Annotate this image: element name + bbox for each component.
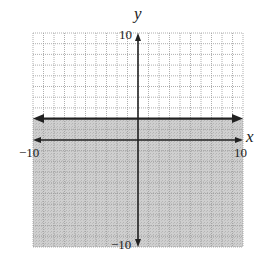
x-max-tick-label: 10 <box>234 146 247 159</box>
x-axis-label: x <box>246 128 254 145</box>
y-axis-arrow-up-icon <box>135 33 141 41</box>
y-min-tick-label: −10 <box>111 238 131 251</box>
y-axis-label: y <box>134 5 142 22</box>
inequality-graph <box>0 0 272 275</box>
x-min-tick-label: −10 <box>19 146 39 159</box>
y-max-tick-label: 10 <box>119 28 132 41</box>
